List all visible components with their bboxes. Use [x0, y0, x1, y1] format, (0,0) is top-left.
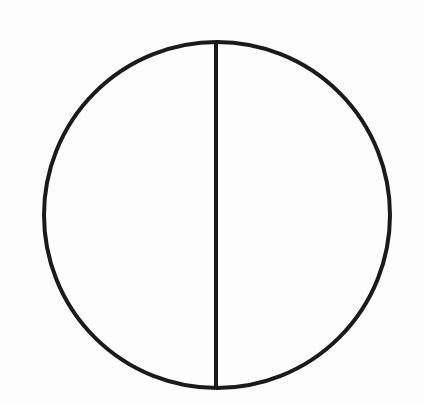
- halved-circle-diagram: [0, 0, 424, 404]
- diagram-canvas: [0, 0, 424, 404]
